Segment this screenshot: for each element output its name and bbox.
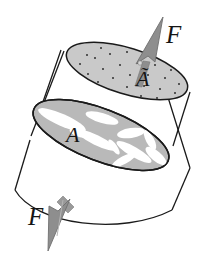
stipple-dot bbox=[164, 77, 166, 79]
stipple-dot bbox=[169, 48, 171, 50]
stipple-dot bbox=[100, 47, 102, 49]
stipple-dot bbox=[140, 95, 142, 97]
stipple-dot bbox=[112, 77, 114, 79]
stipple-dot bbox=[119, 64, 121, 66]
stipple-dot bbox=[135, 41, 137, 43]
stipple-dot bbox=[170, 69, 172, 71]
stipple-dot bbox=[97, 81, 99, 83]
stipple-dot bbox=[178, 83, 180, 85]
area-nominal-label: A bbox=[66, 124, 79, 146]
stipple-dot bbox=[154, 64, 156, 66]
stipple-dot bbox=[124, 96, 126, 98]
stipple-dot bbox=[129, 74, 131, 76]
stipple-dot bbox=[175, 61, 177, 63]
force-label-top: F bbox=[166, 22, 181, 47]
stipple-dot bbox=[156, 97, 158, 99]
stipple-dot bbox=[79, 63, 81, 65]
stipple-dot bbox=[159, 88, 161, 90]
stipple-dot bbox=[126, 86, 128, 88]
stipple-dot bbox=[94, 57, 96, 59]
stipple-dot bbox=[109, 53, 111, 55]
stipple-dot bbox=[87, 73, 89, 75]
stipple-dot bbox=[126, 51, 128, 53]
stipple-dot bbox=[102, 68, 104, 70]
stipple-dot bbox=[174, 92, 176, 94]
stipple-dot bbox=[160, 56, 162, 58]
force-label-bottom: F bbox=[28, 204, 43, 229]
area-effective-label: Ã bbox=[136, 68, 149, 90]
figure-canvas: F F Ã A bbox=[0, 0, 202, 257]
stipple-dot bbox=[86, 54, 88, 56]
